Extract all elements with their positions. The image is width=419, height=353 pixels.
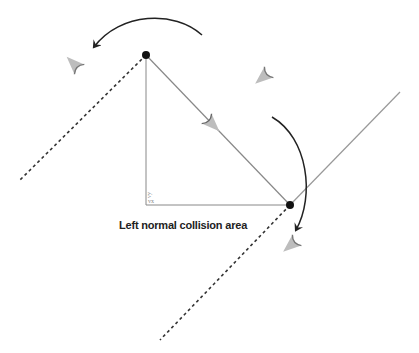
- ship-icon: [279, 235, 302, 257]
- collision-diagram: vy vx: [0, 0, 419, 353]
- curved-arrow-icon: [94, 18, 202, 47]
- ship-icon: [251, 67, 274, 89]
- collision-area-caption: Left normal collision area: [119, 219, 247, 231]
- left-normal-dashed-line: [20, 55, 146, 180]
- vx-label: vx: [148, 198, 154, 204]
- curved-arrow-icon: [272, 117, 306, 230]
- point-icon: [286, 201, 294, 209]
- point-icon: [142, 51, 150, 59]
- ship-icon: [62, 52, 85, 75]
